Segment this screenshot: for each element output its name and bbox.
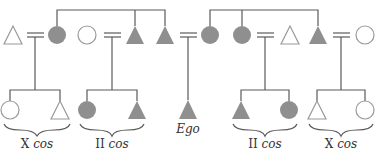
male-triangle-filled	[126, 26, 144, 44]
brace-parallel-cousins-left	[80, 124, 144, 136]
sibling-line-right	[210, 10, 318, 26]
female-circle-filled	[201, 26, 219, 44]
female-circle-outline	[356, 26, 374, 44]
marriage-sign	[257, 33, 274, 90]
marriage-sign	[333, 33, 350, 90]
female-circle-filled	[280, 101, 298, 119]
ego-triangle	[179, 100, 197, 119]
male-triangle-outline	[51, 101, 69, 119]
sibling-line-left	[57, 10, 165, 26]
label-parallel-cousins-left: II cos	[95, 137, 128, 151]
female-circle-filled	[48, 26, 66, 44]
children-line	[241, 90, 289, 101]
children-line	[317, 90, 365, 101]
children-line	[10, 90, 60, 101]
brace-cross-cousins-left	[4, 124, 70, 136]
female-circle-filled	[78, 101, 96, 119]
male-triangle-outline	[308, 101, 326, 119]
female-circle-outline	[78, 26, 96, 44]
marriage-sign	[27, 33, 44, 90]
label-parallel-cousins-right: II cos	[248, 137, 281, 151]
female-circle-outline	[1, 101, 19, 119]
male-triangle-outline	[4, 26, 22, 44]
female-circle-outline	[356, 101, 374, 119]
label-ego: Ego	[176, 122, 200, 136]
male-triangle-filled	[156, 26, 174, 44]
marriage-sign	[104, 33, 121, 90]
female-circle-filled	[233, 26, 251, 44]
cousins-generation	[1, 100, 374, 119]
male-triangle-filled	[309, 26, 327, 44]
parents-generation	[4, 26, 374, 44]
label-cross-cousins-right: X cos	[325, 137, 357, 151]
label-cross-cousins-left: X cos	[21, 137, 53, 151]
marriage-sign	[180, 33, 197, 100]
male-triangle-filled	[232, 101, 250, 119]
brace-cross-cousins-right	[309, 124, 373, 136]
male-triangle-outline	[281, 26, 299, 44]
brace-parallel-cousins-right	[233, 124, 297, 136]
children-line	[87, 90, 137, 101]
male-triangle-filled	[128, 101, 146, 119]
